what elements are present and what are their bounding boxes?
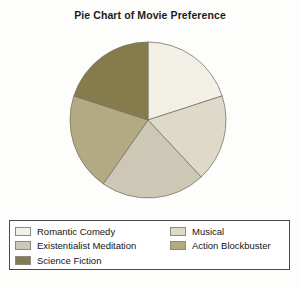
pie-slice-group <box>70 42 226 198</box>
legend-item-label: Romantic Comedy <box>37 227 115 237</box>
legend-swatch-icon <box>15 227 31 236</box>
legend-item: Action Blockbuster <box>170 239 290 254</box>
legend-item-label: Musical <box>192 227 224 237</box>
legend-item-label: Existentialist Meditation <box>37 241 136 251</box>
legend-item: Existentialist Meditation <box>15 239 165 254</box>
legend-swatch-icon <box>15 256 31 265</box>
legend-column-left: Romantic ComedyExistentialist Meditation… <box>15 224 165 268</box>
legend-item-label: Action Blockbuster <box>192 241 271 251</box>
legend-item: Musical <box>170 224 290 239</box>
legend-column-right: MusicalAction Blockbuster <box>170 224 290 253</box>
legend-swatch-icon <box>170 227 186 236</box>
chart-legend: Romantic ComedyExistentialist Meditation… <box>9 220 290 270</box>
legend-item: Science Fiction <box>15 253 165 268</box>
legend-item: Romantic Comedy <box>15 224 165 239</box>
pie-plot-area <box>0 22 300 212</box>
pie-svg <box>0 22 300 212</box>
pie-chart-figure: Pie Chart of Movie Preference Romantic C… <box>0 0 300 289</box>
chart-title: Pie Chart of Movie Preference <box>0 9 300 21</box>
legend-swatch-icon <box>15 241 31 250</box>
legend-swatch-icon <box>170 241 186 250</box>
legend-item-label: Science Fiction <box>37 256 101 266</box>
